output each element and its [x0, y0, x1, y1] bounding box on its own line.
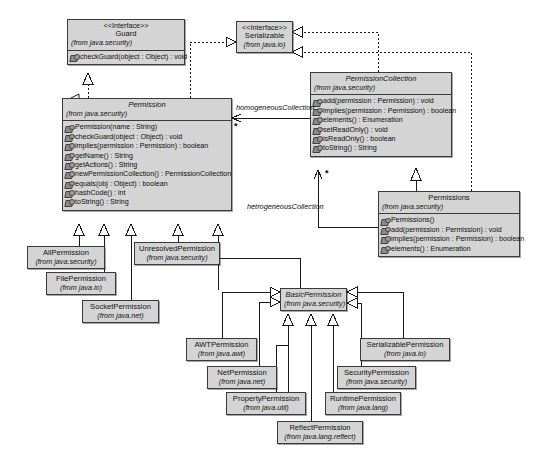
method-label: implies(permission : Permission) : boole… — [323, 107, 456, 116]
method-row: isReadOnly() : boolean — [313, 135, 449, 144]
method-row: getActions() : String — [65, 161, 229, 170]
edge-label-hetrogeneous-collection: hetrogeneousCollection — [247, 202, 324, 211]
method-icon — [65, 162, 73, 169]
method-label: getActions() : String — [75, 161, 137, 170]
class-node-socket-permission[interactable]: SocketPermission (from java.net) — [82, 300, 159, 323]
method-icon — [381, 227, 389, 234]
class-node-unresolved-permission[interactable]: UnresolvedPermission (from java.security… — [134, 242, 220, 265]
node-header: RuntimePermission (from java.lang) — [326, 393, 400, 414]
class-node-basic-permission[interactable]: BasicPermission (from java.security) — [280, 288, 347, 311]
method-label: Permission(name : String) — [75, 123, 157, 132]
method-icon — [65, 134, 73, 141]
method-row: equals(obj : Object) : boolean — [65, 180, 229, 189]
node-header: BasicPermission (from java.security) — [281, 289, 346, 310]
package-label: (from java.io) — [364, 350, 446, 358]
method-row: checkGuard(object : Object) : void — [70, 53, 182, 62]
package-label: (from java.lang.reflect) — [281, 433, 359, 441]
method-icon — [313, 136, 321, 143]
node-header: ReflectPermission (from java.lang.reflec… — [278, 422, 362, 443]
method-label: Permissions() — [391, 216, 434, 225]
method-row: elements() : Enumeration — [313, 116, 449, 125]
node-header: PermissionCollection (from java.security… — [311, 73, 451, 94]
methods-compartment: Permissions() add(permission : Permissio… — [379, 213, 519, 255]
class-node-file-permission[interactable]: FilePermission (from java.io) — [46, 272, 116, 295]
class-node-guard[interactable]: <<Interface>> Guard (from java.security)… — [67, 19, 185, 65]
package-label: (from java.awt) — [190, 350, 253, 358]
method-row: toString() : String — [65, 198, 229, 207]
node-header: SerializablePermission (from java.io) — [361, 339, 449, 360]
methods-compartment: add(permission : Permission) : void impl… — [311, 94, 451, 155]
method-label: elements() : Enumeration — [391, 245, 471, 254]
class-node-security-permission[interactable]: SecurityPermission (from java.security) — [337, 366, 416, 389]
uml-class-diagram: <<Interface>> Guard (from java.security)… — [0, 0, 533, 463]
method-label: newPermissionCollection() : PermissionCo… — [75, 170, 231, 179]
method-label: toString() : String — [75, 198, 129, 207]
method-row: setReadOnly() : void — [313, 126, 449, 135]
method-row: Permissions() — [381, 216, 517, 225]
method-row: implies(permission : Permission) : boole… — [381, 235, 517, 244]
method-row: checkGuard(object : Object) : void — [65, 133, 229, 142]
node-header: NetPermission (from java.net) — [208, 367, 276, 388]
method-label: checkGuard(object : Object) : void — [75, 133, 182, 142]
method-label: checkGuard(object : Object) : void — [80, 53, 187, 62]
class-node-property-permission[interactable]: PropertyPermission (from java.util) — [226, 392, 306, 415]
node-header: <<Interface>> Serializable (from java.io… — [237, 22, 292, 52]
class-node-runtime-permission[interactable]: RuntimePermission (from java.lang) — [325, 392, 401, 415]
method-row: Permission(name : String) — [65, 123, 229, 132]
package-label: (from java.security) — [31, 258, 101, 266]
method-icon — [65, 143, 73, 150]
class-node-permission-collection[interactable]: PermissionCollection (from java.security… — [310, 72, 452, 157]
node-header: FilePermission (from java.io) — [47, 273, 115, 294]
class-node-reflect-permission[interactable]: ReflectPermission (from java.lang.reflec… — [277, 421, 363, 444]
method-row: hashCode() : int — [65, 189, 229, 198]
class-node-net-permission[interactable]: NetPermission (from java.net) — [207, 366, 277, 389]
method-row: elements() : Enumeration — [381, 245, 517, 254]
package-label: (from java.security) — [138, 254, 216, 262]
package-label: (from java.net) — [211, 378, 273, 386]
node-header: SecurityPermission (from java.security) — [338, 367, 415, 388]
node-header: Permissions (from java.security) — [379, 192, 519, 213]
method-label: implies(permission : Permission) : boole… — [391, 235, 524, 244]
method-icon — [381, 218, 389, 225]
package-label: (from java.io) — [50, 284, 112, 292]
method-row: add(permission : Permission) : void — [381, 226, 517, 235]
method-row: toString() : String — [313, 144, 449, 153]
method-row: newPermissionCollection() : PermissionCo… — [65, 170, 229, 179]
node-header: AWTPermission (from java.awt) — [187, 339, 256, 360]
package-label: (from java.security) — [341, 378, 412, 386]
method-label: setReadOnly() : void — [323, 126, 388, 135]
node-header: SocketPermission (from java.net) — [83, 301, 158, 322]
method-row: implies(permission : Permission) : boole… — [313, 107, 449, 116]
class-node-permissions[interactable]: Permissions (from java.security) Permiss… — [378, 191, 520, 257]
multiplicity-permission: * — [234, 122, 238, 131]
method-icon — [65, 190, 73, 197]
node-header: AllPermission (from java.security) — [28, 247, 104, 268]
package-label: (from java.net) — [86, 312, 155, 320]
class-node-serializable[interactable]: <<Interface>> Serializable (from java.io… — [236, 21, 293, 53]
package-label: (from java.security) — [382, 203, 516, 211]
class-node-awt-permission[interactable]: AWTPermission (from java.awt) — [186, 338, 257, 361]
method-row: implies(permission : Permission) : boole… — [65, 142, 229, 151]
method-icon — [313, 145, 321, 152]
method-label: add(permission : Permission) : void — [323, 97, 434, 106]
class-node-permission[interactable]: Permission (from java.security) Permissi… — [62, 98, 232, 211]
methods-compartment: checkGuard(object : Object) : void — [68, 50, 184, 64]
node-header: Permission (from java.security) — [63, 99, 231, 120]
method-icon — [70, 54, 78, 61]
method-icon — [65, 181, 73, 188]
methods-compartment: Permission(name : String) checkGuard(obj… — [63, 120, 231, 209]
method-label: hashCode() : int — [75, 189, 125, 198]
package-label: (from java.lang) — [329, 404, 397, 412]
method-label: equals(obj : Object) : boolean — [75, 180, 168, 189]
package-label: (from java.security) — [71, 39, 181, 47]
class-node-serializable-permission[interactable]: SerializablePermission (from java.io) — [360, 338, 450, 361]
node-header: UnresolvedPermission (from java.security… — [135, 243, 219, 264]
class-node-all-permission[interactable]: AllPermission (from java.security) — [27, 246, 105, 269]
method-icon — [381, 236, 389, 243]
method-label: toString() : String — [323, 144, 377, 153]
node-header: <<Interface>> Guard (from java.security) — [68, 20, 184, 50]
method-icon — [65, 125, 73, 132]
method-label: add(permission : Permission) : void — [391, 226, 502, 235]
method-row: add(permission : Permission) : void — [313, 97, 449, 106]
package-label: (from java.security) — [314, 84, 448, 92]
